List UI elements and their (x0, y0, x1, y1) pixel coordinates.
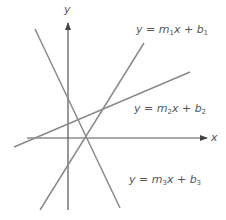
eq-sub: 2 (202, 108, 206, 116)
eq-prefix: y = m (134, 102, 167, 115)
y-axis-label: y (64, 4, 71, 16)
line-2-label: y = m2x + b2 (134, 103, 206, 118)
line-1-label: y = m1x + b1 (136, 24, 208, 39)
eq-mid: x + b (167, 173, 197, 186)
eq-prefix: y = m (136, 23, 169, 36)
line-3 (35, 29, 120, 208)
line-3-label: y = m3x + b3 (129, 174, 201, 189)
eq-mid: x + b (172, 102, 202, 115)
eq-sub: 3 (197, 179, 201, 187)
x-axis-label: x (211, 132, 218, 144)
eq-mid: x + b (174, 23, 204, 36)
eq-prefix: y = m (129, 173, 162, 186)
eq-sub: 1 (204, 29, 208, 37)
